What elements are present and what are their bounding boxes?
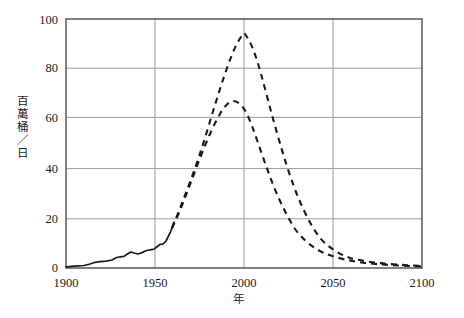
chart-figure: 百萬桶／日 1900 1950 2000 2050 2100 (0, 0, 464, 318)
x-tick-label-2050: 2050 (321, 276, 346, 290)
y-tick-label-0: 0 (52, 261, 58, 275)
x-axis-title: 年 (233, 292, 244, 305)
y-tick-label-20: 20 (46, 212, 59, 226)
x-tick-label-2000: 2000 (232, 276, 257, 290)
x-tick-label-1900: 1900 (54, 276, 79, 290)
y-tick-label-60: 60 (46, 111, 59, 125)
y-tick-label-100: 100 (39, 13, 58, 27)
oil-production-peak-chart: 1900 1950 2000 2050 2100 0 20 40 60 80 1… (0, 0, 464, 318)
x-tick-label-2100: 2100 (410, 276, 435, 290)
x-tick-label-1950: 1950 (143, 276, 168, 290)
y-tick-label-40: 40 (46, 162, 59, 176)
y-tick-label-80: 80 (46, 61, 59, 75)
